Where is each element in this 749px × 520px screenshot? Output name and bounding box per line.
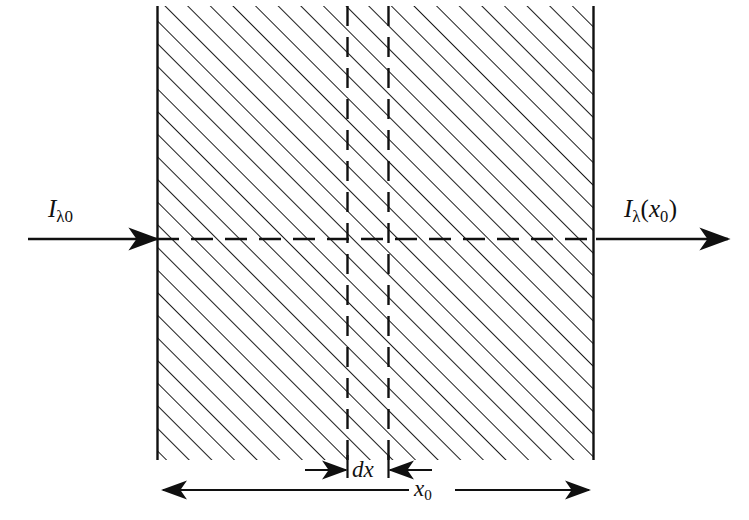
dx-label-text: dx [352, 457, 374, 482]
transmitted-argument-subscript: 0 [660, 207, 669, 226]
incident-subscript: λ0 [56, 207, 73, 226]
x0-label: x0 [414, 477, 432, 502]
transmitted-beam-label: Iλ(x0) [624, 196, 677, 225]
absorption-slab-figure: Iλ0 Iλ(x0) dx x0 [0, 0, 749, 520]
x0-subscript: 0 [424, 486, 432, 503]
incident-beam-label: Iλ0 [48, 196, 73, 225]
slab-hatching [157, 6, 594, 460]
figure-canvas [0, 0, 749, 520]
transmitted-subscript: λ [632, 207, 640, 226]
dx-label: dx [352, 458, 374, 481]
